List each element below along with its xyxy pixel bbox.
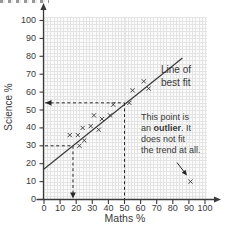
- y-axis-title: Science %: [3, 67, 15, 147]
- data-point-marker: [142, 79, 146, 83]
- data-point-marker: [97, 128, 101, 132]
- data-point-marker: [147, 86, 151, 90]
- outlier-annotation-line1: This point is: [141, 112, 201, 123]
- y-tick-label: 90: [14, 34, 36, 43]
- y-tick-label: 10: [14, 177, 36, 186]
- outlier-annotation-line4: the trend at all.: [141, 145, 201, 156]
- outlier-annotation: This point is an outlier. It does not fi…: [141, 112, 201, 156]
- outlier-marker: [188, 180, 192, 184]
- scatter-graph-figure: 0102030405060708090100 01020304050607080…: [0, 0, 237, 237]
- y-tick-label: 40: [14, 123, 36, 132]
- outlier-annotation-line2: an outlier. It: [141, 123, 201, 134]
- y-tick-label: 70: [14, 70, 36, 79]
- data-point-marker: [76, 133, 80, 137]
- data-point-marker: [81, 126, 85, 130]
- y-tick-label: 20: [14, 159, 36, 168]
- y-tick-label: 0: [14, 195, 36, 204]
- x-axis-title: Maths %: [95, 212, 155, 224]
- x-tick-label: 100: [195, 204, 215, 213]
- best-fit-line-label: Line of best fit: [161, 64, 191, 89]
- data-point-marker: [82, 138, 86, 142]
- data-point-marker: [77, 144, 81, 148]
- y-tick-label: 50: [14, 106, 36, 115]
- outlier-arrowhead-icon: [182, 170, 187, 176]
- outlier-annotation-line3: does not fit: [141, 134, 201, 145]
- data-point-marker: [89, 124, 93, 128]
- y-axis-arrowhead-icon: [40, 3, 46, 10]
- y-tick-label: 60: [14, 88, 36, 97]
- data-point-marker: [68, 133, 72, 137]
- x-axis-arrowhead-icon: [214, 196, 221, 202]
- dashed-left-arrowhead-icon: [46, 100, 52, 106]
- y-tick-label: 30: [14, 141, 36, 150]
- best-fit-line-label-line1: Line of: [161, 64, 191, 77]
- data-point-marker: [130, 88, 134, 92]
- y-tick-label: 80: [14, 52, 36, 61]
- data-point-marker: [92, 113, 96, 117]
- data-point-marker: [100, 117, 104, 121]
- dashed-down-arrowhead-icon: [70, 193, 76, 199]
- best-fit-line-label-line2: best fit: [161, 77, 191, 90]
- y-tick-label: 100: [14, 16, 36, 25]
